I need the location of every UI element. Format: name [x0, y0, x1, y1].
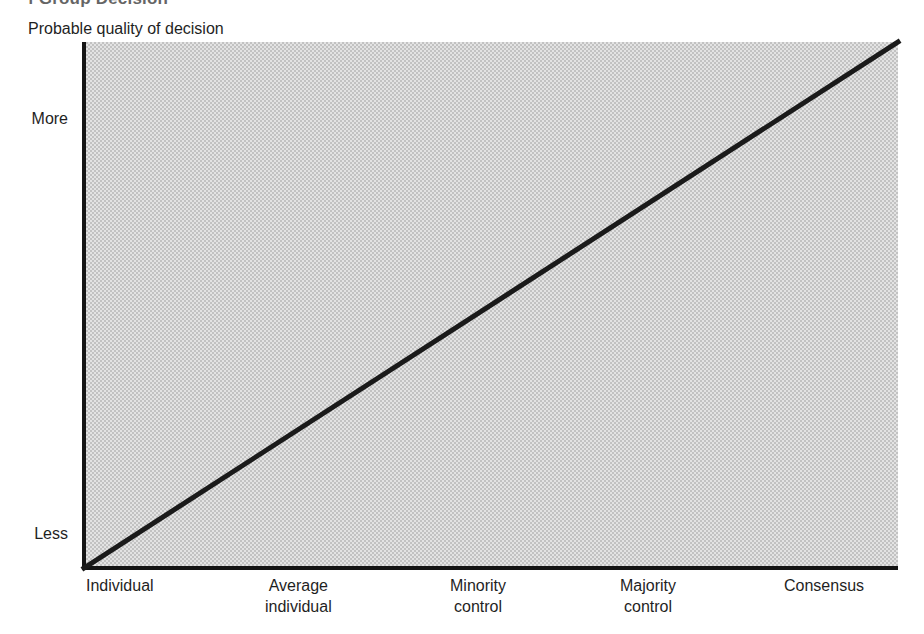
- x-tick-line1: Average: [269, 577, 328, 594]
- y-axis-title: Probable quality of decision: [28, 20, 224, 38]
- x-tick-label-average-individual: Average individual: [265, 575, 332, 617]
- chart-plot-area: More Less: [82, 42, 898, 570]
- figure-caption: f Group Decision: [28, 0, 168, 9]
- x-tick-line1: Minority: [450, 577, 506, 594]
- x-tick-line1: Consensus: [784, 577, 864, 594]
- y-tick-label-more: More: [32, 111, 68, 127]
- x-tick-line2: control: [620, 596, 676, 617]
- x-axis-tick-labels: Individual Average individual Minority c…: [0, 575, 924, 633]
- y-tick-label-less: Less: [34, 526, 68, 542]
- x-tick-line2: control: [450, 596, 506, 617]
- x-tick-label-majority-control: Majority control: [620, 575, 676, 617]
- x-tick-label-minority-control: Minority control: [450, 575, 506, 617]
- x-tick-line1: Individual: [86, 577, 154, 594]
- x-tick-label-consensus: Consensus: [784, 575, 864, 596]
- x-tick-line1: Majority: [620, 577, 676, 594]
- data-line: [82, 42, 898, 570]
- x-tick-line2: individual: [265, 596, 332, 617]
- x-tick-label-individual: Individual: [86, 575, 154, 596]
